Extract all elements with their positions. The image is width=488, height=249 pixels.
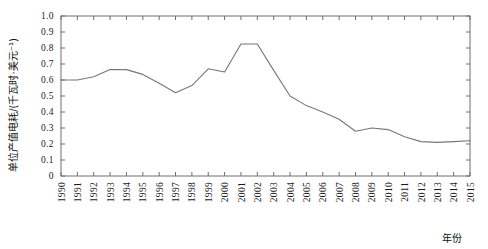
data-series-line	[61, 44, 470, 142]
x-axis-tick-label: 2001	[237, 182, 247, 202]
x-axis-tick-label: 1996	[155, 182, 165, 202]
y-axis-tick-labels: 00.10.20.30.40.50.60.70.80.91.0	[41, 11, 54, 181]
y-axis-tick-label: 0.6	[41, 75, 54, 85]
x-axis-tick-label: 2009	[367, 182, 377, 202]
chart-container: 00.10.20.30.40.50.60.70.80.91.0 19901991…	[0, 0, 488, 249]
axis-ticks	[61, 16, 470, 176]
y-axis-tick-label: 0.8	[41, 43, 54, 53]
x-axis-tick-label: 1993	[106, 182, 116, 202]
y-axis-tick-label: 0.3	[41, 123, 54, 133]
x-axis-tick-label: 1990	[57, 182, 67, 202]
x-axis-tick-label: 2012	[417, 182, 427, 202]
y-axis-tick-label: 0.2	[41, 139, 54, 149]
y-axis-tick-label: 1.0	[41, 11, 54, 21]
x-axis-tick-label: 2014	[449, 182, 459, 202]
y-axis-tick-label: 0	[49, 171, 54, 181]
x-axis-tick-label: 2013	[433, 182, 443, 202]
x-axis-tick-label: 2004	[286, 182, 296, 202]
x-axis-tick-labels: 1990199119921993199419951996199719981999…	[57, 182, 476, 202]
x-axis-tick-label: 2000	[220, 182, 230, 202]
x-axis-tick-label: 2015	[466, 182, 476, 202]
x-axis-tick-label: 1992	[89, 182, 99, 202]
y-axis-tick-label: 0.1	[41, 155, 54, 165]
x-axis-tick-label: 1997	[171, 182, 181, 202]
y-axis-tick-label: 0.7	[41, 59, 54, 69]
y-axis-title: 单位产值电耗/(千瓦时·美元⁻¹)	[7, 38, 19, 172]
x-axis-tick-label: 1998	[187, 182, 197, 202]
y-axis-tick-label: 0.4	[41, 107, 54, 117]
x-axis-tick-label: 2010	[384, 182, 394, 202]
y-axis-tick-label: 0.9	[41, 27, 54, 37]
x-axis-tick-label: 2006	[318, 182, 328, 202]
x-axis-tick-label: 1994	[122, 182, 132, 202]
x-axis-tick-label: 1991	[73, 182, 83, 202]
x-axis-tick-label: 2007	[335, 182, 345, 202]
line-chart: 00.10.20.30.40.50.60.70.80.91.0 19901991…	[0, 0, 488, 249]
x-axis-tick-label: 2002	[253, 182, 263, 202]
x-axis-tick-label: 1995	[138, 182, 148, 202]
x-axis-tick-label: 2011	[400, 182, 410, 202]
x-axis-tick-label: 2008	[351, 182, 361, 202]
figure-caption-strip	[0, 233, 488, 249]
plot-frame	[61, 16, 470, 176]
x-axis-tick-label: 2003	[269, 182, 279, 202]
x-axis-tick-label: 1999	[204, 182, 214, 202]
x-axis-tick-label: 2005	[302, 182, 312, 202]
y-axis-tick-label: 0.5	[41, 91, 54, 101]
